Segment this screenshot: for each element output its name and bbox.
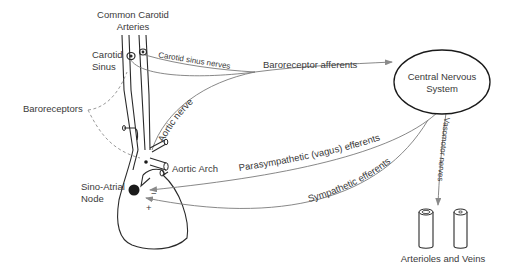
common-carotid-arteries	[122, 35, 150, 150]
label-node: Node	[81, 193, 104, 204]
label-carotid: Carotid	[92, 49, 123, 60]
aortic-baroreceptor-dot	[144, 160, 148, 164]
label-arterioles-veins: Arterioles and Veins	[401, 253, 486, 264]
baroreflex-diagram: Common Carotid Arteries Carotid Sinus Ca…	[0, 0, 513, 272]
label-cns-line2: System	[426, 83, 458, 94]
label-aortic-arch: Aortic Arch	[172, 163, 218, 174]
label-sino-atrial: Sino-Atrial	[81, 181, 125, 192]
label-aortic-nerve: Aortic nerve	[155, 96, 195, 144]
label-cns-line1: Central Nervous	[408, 71, 477, 82]
label-baroreceptor-afferents: Baroreceptor afferents	[263, 59, 358, 70]
label-baroreceptors: Baroreceptors	[23, 103, 83, 114]
label-arteries: Arteries	[117, 21, 150, 32]
label-plus: +	[146, 202, 152, 213]
label-sinus: Sinus	[92, 61, 116, 72]
label-sympathetic-efferents: Sympathetic efferents	[307, 155, 393, 204]
parasympathetic-efferents-arrow	[150, 110, 440, 190]
label-common-carotid: Common Carotid	[97, 9, 169, 20]
label-carotid-sinus-nerves: Carotid sinus nerves	[158, 51, 231, 71]
sa-node-icon	[129, 185, 140, 196]
vein-icon	[454, 209, 467, 248]
arteriole-icon	[419, 209, 433, 248]
label-vasomotor-nerves: Vasomotor nerves	[436, 117, 452, 182]
label-minus: −	[151, 188, 157, 199]
cns-ellipse	[394, 50, 490, 114]
